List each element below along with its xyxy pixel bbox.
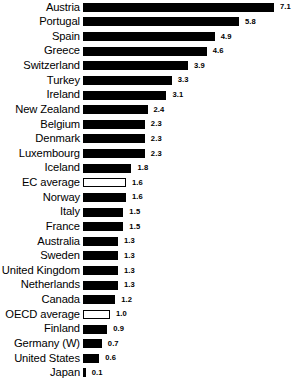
value-bar bbox=[83, 3, 274, 12]
bar-zone: 3.3 bbox=[83, 73, 292, 88]
bar-zone: 0.1 bbox=[83, 366, 292, 380]
value-bar bbox=[83, 120, 145, 129]
bar-row: Sweden1.3 bbox=[0, 249, 292, 264]
bar-row: Australia1.3 bbox=[0, 234, 292, 249]
bar-zone: 1.3 bbox=[83, 263, 292, 278]
bar-zone: 1.3 bbox=[83, 249, 292, 264]
bar-row: United States0.6 bbox=[0, 351, 292, 366]
bar-row: Canada1.2 bbox=[0, 293, 292, 308]
bar-zone: 1.5 bbox=[83, 205, 292, 220]
bar-row: New Zealand2.4 bbox=[0, 102, 292, 117]
bar-row: Spain4.9 bbox=[0, 29, 292, 44]
bar-zone: 0.9 bbox=[83, 322, 292, 337]
bar-row: OECD average1.0 bbox=[0, 307, 292, 322]
value-label: 0.1 bbox=[92, 369, 103, 377]
category-label: Belgium bbox=[0, 119, 83, 131]
value-bar bbox=[83, 354, 99, 363]
category-label: France bbox=[0, 221, 83, 233]
bar-zone: 4.9 bbox=[83, 29, 292, 44]
average-bar bbox=[83, 310, 110, 319]
value-label: 1.5 bbox=[129, 208, 140, 216]
category-label: Finland bbox=[0, 323, 83, 335]
bar-row: Norway1.6 bbox=[0, 190, 292, 205]
bar-zone: 3.9 bbox=[83, 59, 292, 74]
value-bar bbox=[83, 76, 172, 85]
bar-row: United Kingdom1.3 bbox=[0, 263, 292, 278]
category-label: Portugal bbox=[0, 16, 83, 28]
bar-row: Finland0.9 bbox=[0, 322, 292, 337]
bar-zone: 0.6 bbox=[83, 351, 292, 366]
bar-row: France1.5 bbox=[0, 219, 292, 234]
bar-row: Iceland1.8 bbox=[0, 161, 292, 176]
bar-zone: 2.3 bbox=[83, 117, 292, 132]
category-label: Australia bbox=[0, 236, 83, 248]
category-label: Italy bbox=[0, 206, 83, 218]
bar-zone: 3.1 bbox=[83, 88, 292, 103]
value-bar bbox=[83, 193, 126, 202]
bar-row: Netherlands1.3 bbox=[0, 278, 292, 293]
category-label: United Kingdom bbox=[0, 265, 83, 277]
value-bar bbox=[83, 47, 207, 56]
value-label: 2.3 bbox=[151, 120, 162, 128]
value-label: 1.2 bbox=[121, 296, 132, 304]
category-label: Turkey bbox=[0, 75, 83, 87]
value-bar bbox=[83, 237, 118, 246]
category-label: Iceland bbox=[0, 162, 83, 174]
value-bar bbox=[83, 208, 123, 217]
bar-zone: 4.6 bbox=[83, 44, 292, 59]
value-label: 1.0 bbox=[116, 310, 127, 318]
value-label: 1.3 bbox=[124, 281, 135, 289]
bar-row: Luxembourg2.3 bbox=[0, 146, 292, 161]
category-label: Luxembourg bbox=[0, 148, 83, 160]
value-label: 0.6 bbox=[105, 354, 116, 362]
bar-zone: 0.7 bbox=[83, 336, 292, 351]
value-label: 7.1 bbox=[280, 3, 291, 11]
bar-row: Germany (W)0.7 bbox=[0, 336, 292, 351]
bar-zone: 1.5 bbox=[83, 219, 292, 234]
bar-zone: 1.3 bbox=[83, 278, 292, 293]
bar-row: Denmark2.3 bbox=[0, 132, 292, 147]
bar-row: Greece4.6 bbox=[0, 44, 292, 59]
category-label: EC average bbox=[0, 177, 83, 189]
bar-row: Italy1.5 bbox=[0, 205, 292, 220]
category-label: Netherlands bbox=[0, 279, 83, 291]
value-bar bbox=[83, 266, 118, 275]
bar-row: EC average1.6 bbox=[0, 176, 292, 191]
bar-zone: 7.1 bbox=[83, 0, 292, 15]
value-bar bbox=[83, 32, 215, 41]
category-label: Norway bbox=[0, 192, 83, 204]
category-label: Greece bbox=[0, 45, 83, 57]
value-bar bbox=[83, 325, 107, 334]
value-bar bbox=[83, 251, 118, 260]
category-label: OECD average bbox=[0, 309, 83, 321]
value-label: 4.9 bbox=[221, 33, 232, 41]
value-label: 1.5 bbox=[129, 223, 140, 231]
value-bar bbox=[83, 61, 188, 70]
bar-zone: 1.0 bbox=[83, 307, 292, 322]
bar-zone: 2.4 bbox=[83, 102, 292, 117]
bar-zone: 1.3 bbox=[83, 234, 292, 249]
category-label: Denmark bbox=[0, 133, 83, 145]
bar-row: Austria7.1 bbox=[0, 0, 292, 15]
value-label: 1.6 bbox=[132, 179, 143, 187]
value-label: 4.6 bbox=[213, 47, 224, 55]
bar-zone: 1.2 bbox=[83, 293, 292, 308]
bar-zone: 1.6 bbox=[83, 176, 292, 191]
value-bar bbox=[83, 105, 148, 114]
value-label: 3.1 bbox=[172, 91, 183, 99]
value-label: 1.3 bbox=[124, 252, 135, 260]
value-bar bbox=[83, 368, 86, 377]
value-bar bbox=[83, 295, 115, 304]
bar-zone: 1.8 bbox=[83, 161, 292, 176]
category-label: Switzerland bbox=[0, 60, 83, 72]
value-label: 0.7 bbox=[108, 340, 119, 348]
value-bar bbox=[83, 339, 102, 348]
category-label: Canada bbox=[0, 294, 83, 306]
value-bar bbox=[83, 17, 239, 26]
average-bar bbox=[83, 178, 126, 187]
bar-row: Turkey3.3 bbox=[0, 73, 292, 88]
value-label: 3.9 bbox=[194, 62, 205, 70]
category-label: Spain bbox=[0, 31, 83, 43]
value-bar bbox=[83, 164, 131, 173]
value-bar bbox=[83, 91, 166, 100]
